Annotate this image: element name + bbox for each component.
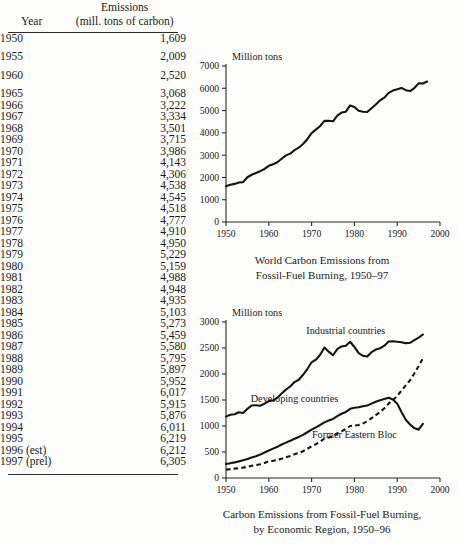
- emissions-table: Year Emissions (mill. tons of carbon): [0, 0, 186, 29]
- table-body: 19501,60919552,00919602,52019653,0681966…: [0, 33, 186, 468]
- emissions-table-body: 19501,60919552,00919602,52019653,0681966…: [0, 33, 186, 468]
- table-row: 19916,017: [0, 387, 186, 399]
- cell-year: 1960: [0, 70, 124, 82]
- table-row: 19805,159: [0, 261, 186, 273]
- x-axis-tick-label: 1960: [259, 484, 278, 495]
- y-axis-tick-label: 2500: [200, 342, 219, 353]
- table-bottom-rule: [8, 474, 178, 475]
- column-header-emissions: Emissions (mill. tons of carbon): [63, 0, 186, 29]
- y-axis-tick-label: 0: [214, 216, 219, 227]
- x-axis-tick-label: 1980: [345, 484, 364, 495]
- table-row: 19935,876: [0, 410, 186, 422]
- data-line-world-emissions: [226, 81, 427, 186]
- y-axis-tick-label: 3000: [200, 150, 219, 161]
- column-header-emissions-line1: Emissions: [63, 0, 186, 14]
- column-header-emissions-line2: (mill. tons of carbon): [63, 14, 186, 28]
- table-row-spacer: [0, 81, 186, 88]
- y-axis-unit-label: Million tons: [232, 51, 282, 62]
- emissions-table-panel: Year Emissions (mill. tons of carbon) 19…: [0, 0, 186, 544]
- table-row: 19925,915: [0, 399, 186, 411]
- y-axis-tick-label: 5000: [200, 105, 219, 116]
- y-axis-tick-label: 7000: [200, 60, 219, 71]
- x-axis-tick-label: 1970: [302, 228, 321, 239]
- series-label-industrial-countries: Industrial countries: [306, 325, 385, 336]
- document-page: Year Emissions (mill. tons of carbon) 19…: [0, 0, 458, 544]
- x-axis-tick-label: 1960: [259, 228, 278, 239]
- table-row-spacer: [0, 63, 186, 70]
- cell-year: 1997 (prel): [0, 456, 124, 468]
- caption-line-2: Fossil-Fuel Burning, 1950–97: [186, 268, 458, 283]
- x-axis-tick-label: 2000: [430, 484, 449, 495]
- cell-emissions: 2,520: [124, 70, 186, 82]
- cell-year: 1955: [0, 51, 124, 63]
- table-row: 19673,334: [0, 111, 186, 123]
- table-row: 19834,935: [0, 295, 186, 307]
- table-row: 19501,609: [0, 33, 186, 45]
- data-line-industrial-countries: [226, 334, 423, 416]
- table-row: 19824,948: [0, 284, 186, 296]
- table-row: 19855,273: [0, 318, 186, 330]
- y-axis-unit-label: Million tons: [232, 307, 282, 318]
- y-axis-tick-label: 0: [214, 472, 219, 483]
- cell-emissions: 1,609: [124, 33, 186, 45]
- x-axis-tick-label: 1970: [302, 484, 321, 495]
- x-axis-tick-label: 2000: [430, 228, 449, 239]
- table-row: 19795,229: [0, 249, 186, 261]
- table-row: 19875,580: [0, 341, 186, 353]
- table-row: 1997 (prel)6,305: [0, 456, 186, 468]
- y-axis-tick-label: 4000: [200, 127, 219, 138]
- table-row: 19905,952: [0, 376, 186, 388]
- table-row: 19784,950: [0, 238, 186, 250]
- x-axis-tick-label: 1950: [216, 228, 235, 239]
- chart-world-emissions-caption: World Carbon Emissions from Fossil-Fuel …: [186, 253, 458, 282]
- y-axis-tick-label: 500: [205, 446, 220, 457]
- y-axis-tick-label: 3000: [200, 316, 219, 327]
- table-row: 19895,897: [0, 364, 186, 376]
- y-axis-tick-label: 6000: [200, 83, 219, 94]
- caption-line-2: by Economic Region, 1950–96: [186, 522, 458, 537]
- cell-emissions: 2,009: [124, 51, 186, 63]
- caption-line-1: World Carbon Emissions from: [186, 253, 458, 268]
- table-row: 19703,986: [0, 146, 186, 158]
- caption-line-1: Carbon Emissions from Fossil-Fuel Burnin…: [186, 507, 458, 522]
- table-row: 19946,011: [0, 422, 186, 434]
- series-label-developing-countries: Developing countries: [251, 393, 338, 404]
- table-row: 19814,988: [0, 272, 186, 284]
- chart-emissions-by-region-caption: Carbon Emissions from Fossil-Fuel Burnin…: [186, 507, 458, 536]
- y-axis-tick-label: 1000: [200, 420, 219, 431]
- table-row: 19774,910: [0, 226, 186, 238]
- table-row: 19885,795: [0, 353, 186, 365]
- chart-axes: [226, 64, 440, 222]
- table-row: 19693,715: [0, 134, 186, 146]
- y-axis-tick-label: 2000: [200, 172, 219, 183]
- table-row: 19714,143: [0, 157, 186, 169]
- cell-year: 1950: [0, 33, 124, 45]
- table-row: 19663,222: [0, 100, 186, 112]
- table-row: 19845,103: [0, 307, 186, 319]
- x-axis-tick-label: 1980: [345, 228, 364, 239]
- x-axis-tick-label: 1950: [216, 484, 235, 495]
- table-row: 19734,538: [0, 180, 186, 192]
- table-row: 19552,009: [0, 51, 186, 63]
- table-row: 19724,306: [0, 169, 186, 181]
- x-axis-tick-label: 1990: [388, 484, 407, 495]
- table-row: 19653,068: [0, 88, 186, 100]
- table-row: 19754,518: [0, 203, 186, 215]
- table-row: 19744,545: [0, 192, 186, 204]
- table-row: 19683,501: [0, 123, 186, 135]
- y-axis-tick-label: 1500: [200, 394, 219, 405]
- x-axis-tick-label: 1990: [388, 228, 407, 239]
- table-row: 19602,520: [0, 70, 186, 82]
- column-header-year: Year: [0, 0, 63, 29]
- y-axis-tick-label: 2000: [200, 368, 219, 379]
- table-header: Year Emissions (mill. tons of carbon): [0, 0, 186, 29]
- table-row: 19865,459: [0, 330, 186, 342]
- table-row-spacer: [0, 44, 186, 51]
- data-line-developing-countries: [226, 358, 423, 469]
- series-label-former-eastern-bloc: Former Eastern Bloc: [312, 429, 397, 440]
- y-axis-tick-label: 1000: [200, 194, 219, 205]
- cell-emissions: 6,305: [124, 456, 186, 468]
- table-row: 19764,777: [0, 215, 186, 227]
